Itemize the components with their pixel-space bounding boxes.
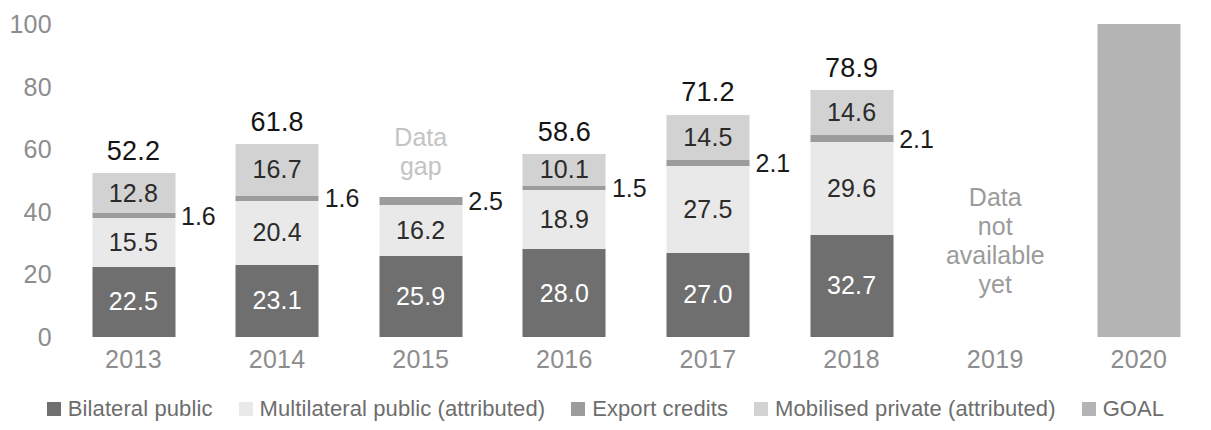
bar-total-label: 61.8 — [250, 109, 303, 136]
legend-swatch-icon — [47, 402, 61, 416]
legend-item[interactable]: Mobilised private (attributed) — [754, 398, 1056, 420]
segment-value-multilateral-public: 20.4 — [252, 220, 301, 245]
x-axis-tick: 2014 — [249, 347, 306, 372]
legend-item[interactable]: Export credits — [571, 398, 728, 420]
bar-segment-bilateral-public: 23.1 — [236, 265, 319, 337]
bar-total-label: 58.6 — [538, 119, 591, 146]
x-axis-tick: 2013 — [105, 347, 162, 372]
y-axis-tick: 40 — [24, 199, 52, 224]
bar-stack: 2.516.225.9 — [379, 197, 462, 337]
x-axis-tick: 2016 — [536, 347, 593, 372]
bar-segment-multilateral-public: 27.5 — [667, 166, 750, 252]
stacked-bar-chart: 100 80 60 40 20 0 12.81.615.522.552.2201… — [0, 0, 1211, 430]
bar-stack: 14.62.129.632.7 — [810, 90, 893, 337]
bar-segment-multilateral-public: 20.4 — [236, 201, 319, 265]
segment-value-mobilised-private: 14.5 — [683, 125, 732, 150]
bar-segment-multilateral-public: 29.6 — [810, 142, 893, 235]
bar-segment-mobilised-private: 14.5 — [667, 115, 750, 160]
segment-value-bilateral-public: 32.7 — [827, 273, 876, 298]
bar-column: 10.11.518.928.058.62016 — [493, 0, 636, 380]
legend-item[interactable]: GOAL — [1082, 398, 1165, 420]
bar-segment-bilateral-public: 27.0 — [667, 253, 750, 338]
segment-value-bilateral-public: 25.9 — [396, 284, 445, 309]
bar-column: 12.81.615.522.552.22013 — [62, 0, 205, 380]
bar-total-label: 71.2 — [681, 79, 734, 106]
legend-item[interactable]: Multilateral public (attributed) — [239, 398, 546, 420]
bar-segment-bilateral-public: 22.5 — [92, 267, 175, 337]
bar-total-label: 52.2 — [107, 138, 160, 165]
y-axis-tick: 100 — [9, 12, 52, 37]
bar-stack — [1097, 24, 1180, 337]
segment-value-multilateral-public: 27.5 — [683, 197, 732, 222]
bar-segment-multilateral-public: 18.9 — [523, 190, 606, 249]
bar-stack: 10.11.518.928.0 — [523, 154, 606, 337]
bar-segment-bilateral-public: 28.0 — [523, 249, 606, 337]
y-axis-tick: 80 — [24, 74, 52, 99]
x-axis-tick: 2015 — [392, 347, 449, 372]
segment-value-multilateral-public: 16.2 — [396, 218, 445, 243]
bar-segment-multilateral-public: 16.2 — [379, 205, 462, 256]
segment-value-multilateral-public: 15.5 — [109, 230, 158, 255]
bar-column: 2.516.225.9Data gap2015 — [349, 0, 492, 380]
legend-swatch-icon — [239, 402, 253, 416]
bar-column: 16.71.620.423.161.82014 — [206, 0, 349, 380]
bar-column: 14.52.127.527.071.22017 — [637, 0, 780, 380]
y-axis-tick: 60 — [24, 137, 52, 162]
y-axis-tick: 0 — [38, 325, 52, 350]
bar-segment-goal — [1097, 24, 1180, 337]
data-not-available-note: Data not available yet — [946, 183, 1045, 299]
segment-value-bilateral-public: 23.1 — [252, 288, 301, 313]
segment-value-mobilised-private: 10.1 — [540, 157, 589, 182]
x-axis-tick: 2020 — [1110, 347, 1167, 372]
bar-stack: 12.81.615.522.5 — [92, 173, 175, 337]
bar-segment-mobilised-private: 16.7 — [236, 144, 319, 196]
bar-stack: 16.71.620.423.1 — [236, 144, 319, 337]
legend-label: Export credits — [592, 398, 728, 420]
segment-value-multilateral-public: 29.6 — [827, 176, 876, 201]
bar-segment-mobilised-private: 14.6 — [810, 90, 893, 136]
legend-label: Bilateral public — [68, 398, 213, 420]
bar-total-label: 78.9 — [825, 55, 878, 82]
bar-column: 2020 — [1067, 0, 1210, 380]
legend-swatch-icon — [754, 402, 768, 416]
bar-segment-bilateral-public: 25.9 — [379, 256, 462, 337]
legend-swatch-icon — [571, 402, 585, 416]
x-axis-tick: 2019 — [967, 347, 1024, 372]
plot-area: 12.81.615.522.552.2201316.71.620.423.161… — [62, 0, 1211, 380]
x-axis-tick: 2018 — [823, 347, 880, 372]
bar-stack: 14.52.127.527.0 — [667, 115, 750, 338]
segment-value-mobilised-private: 16.7 — [252, 157, 301, 182]
x-axis-tick: 2017 — [680, 347, 737, 372]
bar-segment-mobilised-private: 10.1 — [523, 154, 606, 186]
bar-segment-mobilised-private: 12.8 — [92, 173, 175, 213]
segment-value-multilateral-public: 18.9 — [540, 207, 589, 232]
segment-value-mobilised-private: 12.8 — [109, 181, 158, 206]
data-gap-note: Data gap — [394, 123, 447, 181]
y-axis: 100 80 60 40 20 0 — [0, 0, 62, 380]
chart-legend: Bilateral publicMultilateral public (att… — [0, 388, 1211, 430]
segment-value-bilateral-public: 22.5 — [109, 289, 158, 314]
segment-value-bilateral-public: 27.0 — [683, 282, 732, 307]
legend-label: GOAL — [1103, 398, 1165, 420]
legend-label: Mobilised private (attributed) — [775, 398, 1056, 420]
segment-value-mobilised-private: 14.6 — [827, 100, 876, 125]
bar-segment-multilateral-public: 15.5 — [92, 218, 175, 267]
legend-item[interactable]: Bilateral public — [47, 398, 213, 420]
bar-segment-bilateral-public: 32.7 — [810, 235, 893, 337]
y-axis-tick: 20 — [24, 262, 52, 287]
bar-column: 14.62.129.632.778.92018 — [780, 0, 923, 380]
bar-segment-export-credits: 2.5 — [379, 197, 462, 205]
segment-value-bilateral-public: 28.0 — [540, 281, 589, 306]
legend-swatch-icon — [1082, 402, 1096, 416]
legend-label: Multilateral public (attributed) — [260, 398, 546, 420]
bar-column: Data not available yet2019 — [924, 0, 1067, 380]
